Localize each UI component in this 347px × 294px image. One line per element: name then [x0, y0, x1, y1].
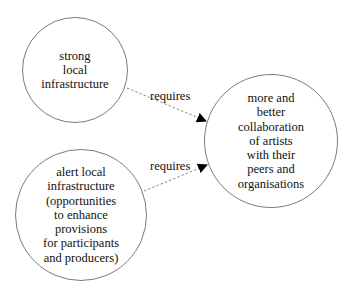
edge-label-requires-top: requires [150, 89, 190, 103]
node-label: more and better collaboration of artists… [238, 91, 304, 190]
node-label: strong local infrastructure [41, 49, 108, 92]
node-label: alert local infrastructure (opportunitie… [43, 165, 119, 264]
node-alert-local-infrastructure: alert local infrastructure (opportunitie… [15, 149, 147, 281]
node-more-better-collaboration: more and better collaboration of artists… [204, 74, 338, 208]
edge-label-requires-bottom: requires [150, 159, 190, 173]
node-strong-local-infrastructure: strong local infrastructure [22, 17, 128, 123]
